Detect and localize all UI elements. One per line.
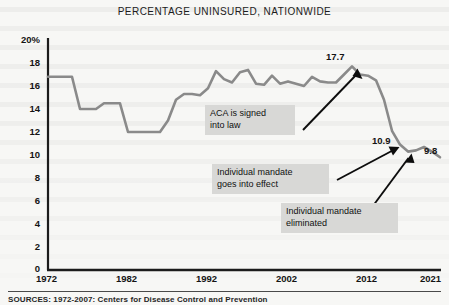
ytick-label-4: 4 [0, 219, 40, 229]
ytick-label-10: 10 [0, 150, 40, 160]
xtick-label-1992: 1992 [196, 274, 217, 284]
ytick-label-0: 0 [0, 264, 40, 274]
ytick-label-18: 18 [0, 58, 40, 68]
ytick-label-16: 16 [0, 81, 40, 91]
ytick-label-8: 8 [0, 173, 40, 183]
ytick-label-6: 6 [0, 196, 40, 206]
callout-mandate-eliminated: Individual mandate eliminated [281, 203, 398, 233]
source-note: SOURCES: 1972-2007: Centers for Disease … [8, 295, 268, 304]
ytick-label-20: 20% [0, 35, 40, 45]
xtick-label-1972: 1972 [36, 274, 57, 284]
ytick-label-2: 2 [0, 242, 40, 252]
annotation-arrow-mandate-in-effect [337, 147, 400, 181]
ytick-label-12: 12 [0, 127, 40, 137]
xtick-label-1982: 1982 [116, 274, 137, 284]
xtick-label-2002: 2002 [276, 274, 297, 284]
chart-figure: PERCENTAGE UNINSURED, NATIONWIDE 20% 18 … [0, 0, 449, 305]
callout-aca-signed: ACA is signed into law [205, 105, 295, 135]
source-divider [8, 291, 441, 292]
xtick-label-2012: 2012 [356, 274, 377, 284]
xtick-label-2021: 2021 [420, 274, 441, 284]
ytick-label-14: 14 [0, 104, 40, 114]
data-label-17-7: 17.7 [326, 51, 345, 62]
data-label-10-9: 10.9 [372, 135, 391, 146]
callout-mandate-in-effect: Individual mandate goes into effect [212, 164, 329, 194]
plot-area [0, 0, 449, 305]
data-label-9-8: 9.8 [424, 145, 437, 156]
